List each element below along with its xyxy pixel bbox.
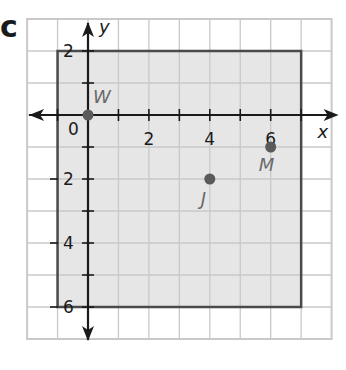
x-tick-label: 0 bbox=[68, 119, 79, 139]
y-tick-label: 6 bbox=[63, 297, 74, 317]
point-label-w: W bbox=[93, 86, 112, 107]
point-m bbox=[265, 142, 276, 153]
point-w bbox=[83, 110, 94, 121]
point-label-m: M bbox=[259, 154, 275, 175]
x-axis-label: x bbox=[317, 121, 329, 142]
y-tick-label: 2 bbox=[63, 41, 74, 61]
part-label: c bbox=[0, 9, 18, 44]
y-tick-label: 4 bbox=[63, 233, 74, 253]
x-tick-label: 4 bbox=[204, 129, 215, 149]
x-tick-label: 2 bbox=[143, 129, 154, 149]
y-tick-label: 2 bbox=[63, 169, 74, 189]
coordinate-plane: c 02462246 x y WMJ bbox=[0, 0, 346, 370]
y-axis-label: y bbox=[98, 16, 110, 37]
point-j bbox=[204, 174, 215, 185]
